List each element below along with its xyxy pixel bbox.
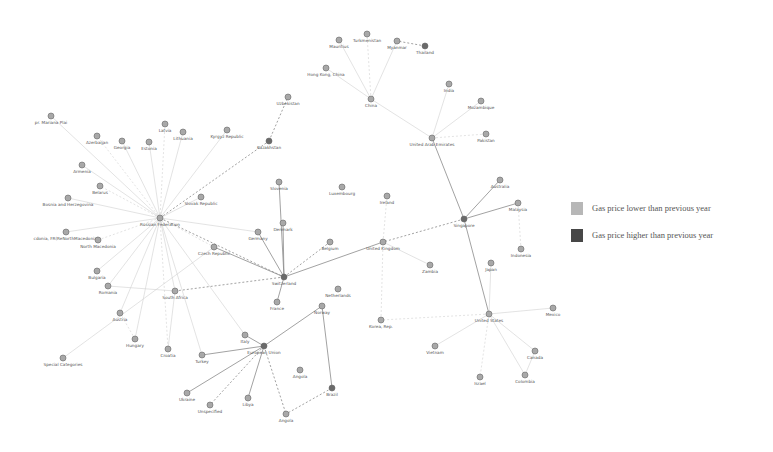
node-luxembourg[interactable]: Luxembourg	[329, 184, 355, 196]
node-circle-icon[interactable]	[427, 262, 433, 268]
node-circle-icon[interactable]	[488, 260, 494, 266]
node-mozambique[interactable]: Mozambique	[468, 98, 495, 110]
node-angola2[interactable]: Angola	[279, 411, 294, 423]
node-circle-icon[interactable]	[146, 139, 152, 145]
node-circle-icon[interactable]	[180, 129, 186, 135]
node-estonia[interactable]: Estonia	[141, 139, 157, 151]
node-angola1[interactable]: Angola	[293, 367, 308, 379]
node-israel[interactable]: Israel	[474, 374, 485, 386]
node-ukraine[interactable]: Ukraine	[179, 390, 196, 402]
node-circle-icon[interactable]	[280, 220, 286, 226]
node-switzerland[interactable]: Switzerland	[272, 274, 297, 286]
node-circle-icon[interactable]	[335, 286, 341, 292]
node-circle-icon[interactable]	[429, 135, 435, 141]
node-circle-icon[interactable]	[48, 113, 54, 119]
node-circle-icon[interactable]	[274, 299, 280, 305]
node-circle-icon[interactable]	[60, 355, 66, 361]
node-canada[interactable]: Canada	[527, 348, 543, 360]
node-denmark[interactable]: Denmark	[273, 220, 293, 232]
node-circle-icon[interactable]	[486, 311, 492, 317]
node-uzbekistan[interactable]: Uzbekistan	[276, 94, 299, 106]
node-norway[interactable]: Norway	[314, 303, 330, 315]
node-lithuania[interactable]: Lithuania	[173, 129, 193, 141]
node-turkey[interactable]: Turkey	[194, 352, 209, 364]
node-specialcat[interactable]: Special Categories	[44, 355, 83, 367]
node-colombia[interactable]: Colombia	[515, 372, 535, 384]
node-circle-icon[interactable]	[95, 237, 101, 243]
node-croatia[interactable]: Croatia	[160, 346, 175, 358]
node-georgia[interactable]: Georgia	[114, 138, 131, 150]
node-circle-icon[interactable]	[394, 38, 400, 44]
node-russia[interactable]: Russian Federation	[140, 215, 180, 227]
node-circle-icon[interactable]	[63, 229, 69, 235]
node-circle-icon[interactable]	[329, 385, 335, 391]
node-hungary[interactable]: Hungary	[126, 336, 144, 348]
node-circle-icon[interactable]	[515, 200, 521, 206]
node-circle-icon[interactable]	[297, 367, 303, 373]
node-mexico[interactable]: Mexico	[546, 305, 561, 317]
node-circle-icon[interactable]	[117, 310, 123, 316]
node-circle-icon[interactable]	[199, 352, 205, 358]
node-italy[interactable]: Italy	[240, 332, 250, 344]
node-circle-icon[interactable]	[522, 372, 528, 378]
node-circle-icon[interactable]	[477, 374, 483, 380]
node-libya[interactable]: Libya	[242, 395, 254, 407]
node-circle-icon[interactable]	[207, 402, 213, 408]
node-uk[interactable]: United Kingdom	[366, 239, 400, 251]
node-circle-icon[interactable]	[285, 94, 291, 100]
node-circle-icon[interactable]	[422, 43, 428, 49]
node-vietnam[interactable]: Vietnam	[426, 343, 443, 355]
node-circle-icon[interactable]	[105, 283, 111, 289]
node-circle-icon[interactable]	[79, 162, 85, 168]
node-circle-icon[interactable]	[266, 138, 272, 144]
node-circle-icon[interactable]	[336, 37, 342, 43]
node-slovenia[interactable]: Slovenia	[270, 179, 288, 191]
node-circle-icon[interactable]	[461, 216, 467, 222]
node-zambia[interactable]: Zambia	[422, 262, 438, 274]
node-india[interactable]: India	[444, 81, 455, 93]
node-circle-icon[interactable]	[162, 121, 168, 127]
node-hongkong[interactable]: Hong Kong, China	[307, 65, 345, 77]
node-brazil[interactable]: Brazil	[326, 385, 338, 397]
node-circle-icon[interactable]	[339, 184, 345, 190]
node-circle-icon[interactable]	[242, 332, 248, 338]
node-circle-icon[interactable]	[172, 288, 178, 294]
node-bulgaria[interactable]: Bulgaria	[88, 268, 106, 280]
node-circle-icon[interactable]	[165, 346, 171, 352]
node-circle-icon[interactable]	[518, 246, 524, 252]
node-romania[interactable]: Romania	[99, 283, 118, 295]
node-circle-icon[interactable]	[94, 133, 100, 139]
node-azerbaijan[interactable]: Azerbaijan	[86, 133, 108, 145]
node-korea[interactable]: Korea, Rep.	[369, 317, 393, 329]
node-bosnia[interactable]: Bosnia and Herzegovina	[43, 195, 94, 207]
node-circle-icon[interactable]	[384, 193, 390, 199]
node-mauritius[interactable]: Mauritius	[329, 37, 348, 49]
node-macedonia[interactable]: cdonia, FR(ReNorthMacedonia)	[34, 229, 99, 241]
node-circle-icon[interactable]	[497, 177, 503, 183]
node-armenia[interactable]: Armenia	[73, 162, 91, 174]
node-pakistan[interactable]: Pakistan	[477, 131, 495, 143]
node-indonesia[interactable]: Indonesia	[511, 246, 532, 258]
node-circle-icon[interactable]	[119, 138, 125, 144]
node-japan[interactable]: Japan	[484, 260, 497, 272]
node-unspecified[interactable]: Unspecified	[198, 402, 223, 414]
node-circle-icon[interactable]	[157, 215, 163, 221]
node-malaysia[interactable]: Malaysia	[509, 200, 528, 212]
node-circle-icon[interactable]	[478, 98, 484, 104]
node-ireland[interactable]: Ireland	[380, 193, 395, 205]
node-kyrgyz[interactable]: Kyrgyz Republic	[210, 127, 244, 139]
node-circle-icon[interactable]	[368, 96, 374, 102]
node-circle-icon[interactable]	[65, 195, 71, 201]
node-france[interactable]: France	[270, 299, 284, 311]
node-circle-icon[interactable]	[211, 244, 217, 250]
node-latvia[interactable]: Latvia	[159, 121, 172, 133]
node-circle-icon[interactable]	[532, 348, 538, 354]
node-circle-icon[interactable]	[550, 305, 556, 311]
node-circle-icon[interactable]	[323, 65, 329, 71]
node-myanmar[interactable]: Myanmar	[387, 38, 407, 50]
node-circle-icon[interactable]	[281, 274, 287, 280]
node-circle-icon[interactable]	[327, 239, 333, 245]
node-circle-icon[interactable]	[483, 131, 489, 137]
node-circle-icon[interactable]	[94, 268, 100, 274]
node-turkmenistan[interactable]: Turkmenistan	[352, 31, 382, 43]
